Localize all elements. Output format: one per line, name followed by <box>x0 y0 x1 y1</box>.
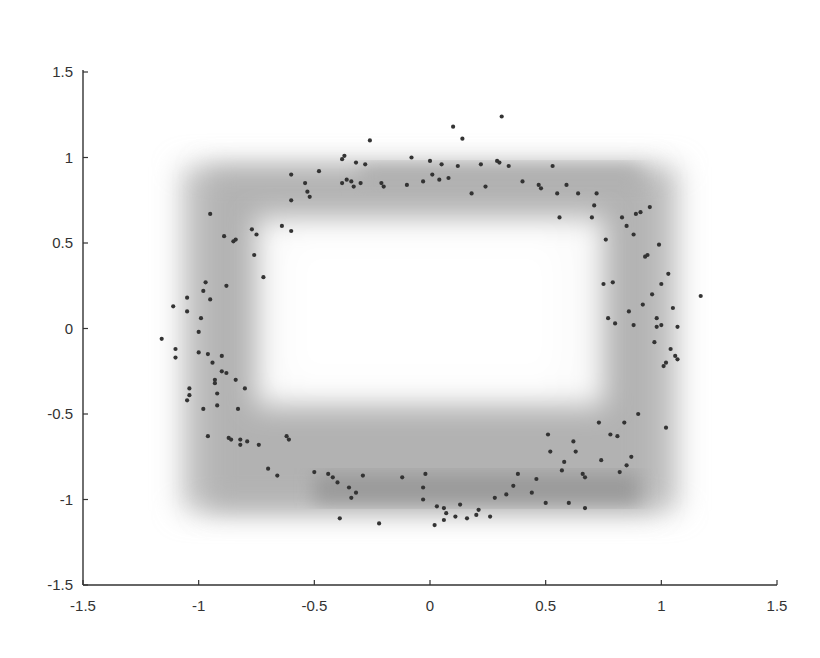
data-point <box>289 198 293 202</box>
data-point <box>433 523 437 527</box>
x-tick-label: 0.5 <box>535 597 556 614</box>
data-point <box>435 504 439 508</box>
data-point <box>185 296 189 300</box>
data-point <box>171 304 175 308</box>
data-point <box>444 511 448 515</box>
data-point <box>349 496 353 500</box>
data-point <box>560 468 564 472</box>
data-point <box>236 407 240 411</box>
data-point <box>201 407 205 411</box>
data-point <box>275 474 279 478</box>
data-point <box>430 173 434 177</box>
data-point <box>199 316 203 320</box>
y-tick-label: -1 <box>60 491 73 508</box>
data-point <box>354 161 358 165</box>
data-point <box>544 501 548 505</box>
data-point <box>592 203 596 207</box>
data-point <box>187 386 191 390</box>
data-point <box>229 438 233 442</box>
data-point <box>622 421 626 425</box>
data-point <box>206 352 210 356</box>
data-point <box>507 164 511 168</box>
data-point <box>340 181 344 185</box>
data-point <box>625 224 629 228</box>
data-point <box>650 292 654 296</box>
data-point <box>520 179 524 183</box>
data-point <box>664 426 668 430</box>
data-point <box>590 215 594 219</box>
data-point <box>497 161 501 165</box>
data-point <box>632 323 636 327</box>
data-point <box>583 475 587 479</box>
data-point <box>659 282 663 286</box>
data-point <box>458 503 462 507</box>
data-point <box>257 443 261 447</box>
data-point <box>197 350 201 354</box>
data-point <box>446 176 450 180</box>
data-point <box>238 438 242 442</box>
data-point <box>213 381 217 385</box>
y-tick-label: 1 <box>65 149 73 166</box>
data-point <box>655 316 659 320</box>
data-point <box>234 238 238 242</box>
data-point <box>206 434 210 438</box>
data-point <box>451 125 455 129</box>
data-point <box>557 215 561 219</box>
data-point <box>245 439 249 443</box>
data-point <box>400 475 404 479</box>
data-point <box>363 162 367 166</box>
data-point <box>465 516 469 520</box>
data-point <box>187 393 191 397</box>
data-point <box>671 306 675 310</box>
data-point <box>252 253 256 257</box>
data-point <box>210 361 214 365</box>
x-tick-label: 1 <box>657 597 665 614</box>
data-point <box>303 181 307 185</box>
data-point <box>173 356 177 360</box>
data-point <box>354 491 358 495</box>
x-tick-label: -1.5 <box>70 597 96 614</box>
data-point <box>583 506 587 510</box>
data-point <box>567 501 571 505</box>
data-point <box>409 155 413 159</box>
data-point <box>160 337 164 341</box>
data-point <box>347 485 351 489</box>
data-point <box>611 280 615 284</box>
data-point <box>477 508 481 512</box>
data-point <box>238 443 242 447</box>
data-point <box>197 330 201 334</box>
data-point <box>659 323 663 327</box>
data-point <box>335 480 339 484</box>
data-point <box>305 190 309 194</box>
data-point <box>460 137 464 141</box>
data-point <box>483 185 487 189</box>
data-point <box>222 234 226 238</box>
data-point <box>604 238 608 242</box>
data-point <box>627 309 631 313</box>
data-point <box>548 450 552 454</box>
data-point <box>437 178 441 182</box>
data-point <box>511 484 515 488</box>
data-point <box>620 215 624 219</box>
data-point <box>648 205 652 209</box>
data-point <box>421 497 425 501</box>
data-point <box>349 179 353 183</box>
density-dark-bottom <box>314 474 638 503</box>
data-point <box>215 403 219 407</box>
density-background <box>182 166 679 511</box>
data-point <box>632 232 636 236</box>
data-point <box>574 450 578 454</box>
data-point <box>652 340 656 344</box>
data-point <box>453 515 457 519</box>
y-tick-label: -1.5 <box>47 576 73 593</box>
data-point <box>243 386 247 390</box>
data-point <box>317 169 321 173</box>
data-point <box>551 164 555 168</box>
data-point <box>595 191 599 195</box>
data-point <box>530 491 534 495</box>
data-point <box>673 354 677 358</box>
data-point <box>625 463 629 467</box>
data-point <box>675 325 679 329</box>
data-point <box>576 191 580 195</box>
data-point <box>562 460 566 464</box>
